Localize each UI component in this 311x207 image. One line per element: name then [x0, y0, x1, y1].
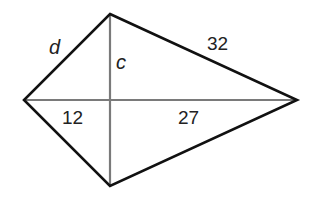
kite-diagram: d c 32 12 27	[0, 0, 311, 207]
label-side-d: d	[49, 36, 61, 58]
label-segment-c: c	[116, 51, 126, 73]
label-segment-27: 27	[178, 107, 199, 128]
label-segment-12: 12	[62, 107, 83, 128]
label-side-32: 32	[207, 33, 228, 54]
